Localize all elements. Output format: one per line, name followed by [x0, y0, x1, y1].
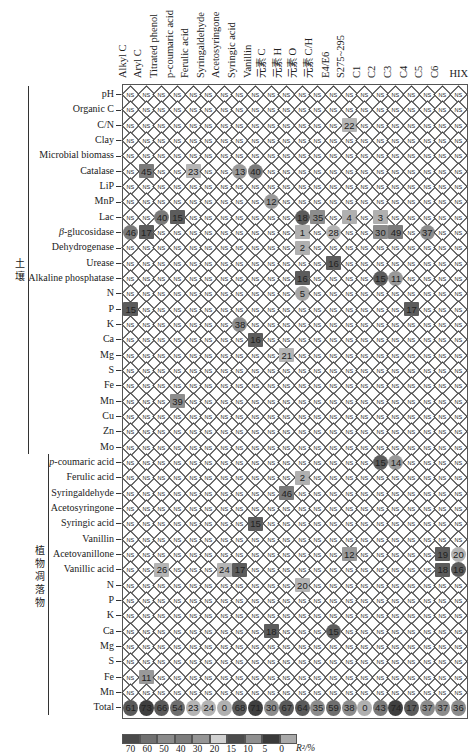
heatmap-cell: NS — [154, 332, 170, 347]
heatmap-cell: NS — [451, 685, 467, 700]
heatmap-cell: NS — [279, 654, 295, 669]
heatmap-cell: 30 — [263, 700, 279, 715]
heatmap-cell: NS — [435, 608, 451, 623]
heatmap-cell: NS — [201, 286, 217, 301]
column-label: C6 — [429, 66, 440, 78]
table-row: NSNSNSNSNSNSNSNSNSNSNSNSNSNSNSNSNSNSNSNS… — [123, 532, 467, 547]
heatmap-cell: NS — [201, 562, 217, 577]
heatmap-cell: NS — [232, 286, 248, 301]
heatmap-cell: NS — [123, 240, 139, 255]
heatmap-cell: 16 — [248, 332, 264, 347]
heatmap-cell: NS — [232, 332, 248, 347]
heatmap-cell: NS — [154, 102, 170, 117]
heatmap-cell: NS — [123, 562, 139, 577]
column-label: Alkyl C — [117, 44, 128, 78]
row-label: Dehydrogenase — [52, 239, 121, 254]
legend-tick: 5 — [256, 744, 273, 754]
heatmap-cell: NS — [357, 608, 373, 623]
heatmap-cell: NS — [232, 470, 248, 485]
heatmap-cell: NS — [201, 102, 217, 117]
heatmap-cell: NS — [388, 302, 404, 317]
heatmap-cell: NS — [248, 654, 264, 669]
heatmap-cell: NS — [404, 608, 420, 623]
table-row: 4617NSNSNSNSNSNSNSNSNS1NS28NSNS3049NS37N… — [123, 225, 467, 240]
row-label: Mo — [100, 439, 121, 454]
table-row: 6173665423240687130676435593804374173737… — [123, 700, 467, 715]
heatmap-cell: NS — [232, 240, 248, 255]
heatmap-cell: NS — [326, 286, 342, 301]
heatmap-cell: NS — [310, 148, 326, 163]
heatmap-cell: NS — [357, 424, 373, 439]
heatmap-cell: 0 — [357, 700, 373, 715]
heatmap-cell: 64 — [295, 700, 311, 715]
row-label: β-glucosidase — [59, 224, 121, 239]
heatmap-cell: NS — [357, 240, 373, 255]
table-row: NSNSNSNSNSNSNSNSNSNSNSNSNSNSNSNSNSNSNSNS… — [123, 685, 467, 700]
heatmap-cell: 19 — [435, 547, 451, 562]
heatmap-cell: NS — [404, 562, 420, 577]
heatmap-cell: NS — [123, 332, 139, 347]
heatmap-cell: 23 — [185, 700, 201, 715]
heatmap-cell: NS — [248, 194, 264, 209]
heatmap-cell: 18 — [435, 562, 451, 577]
heatmap-cell: NS — [170, 562, 186, 577]
heatmap-cell: NS — [201, 240, 217, 255]
heatmap-cell: NS — [435, 332, 451, 347]
heatmap-cell: NS — [170, 654, 186, 669]
heatmap-cell: 0 — [217, 700, 233, 715]
heatmap-cell: NS — [404, 470, 420, 485]
table-row: NSNSNSNSNSNSNSNSNSNSNSNSNS16NSNSNSNSNSNS… — [123, 256, 467, 271]
heatmap-cell: NS — [404, 240, 420, 255]
row-label: P — [108, 301, 121, 316]
table-row: NSNSNSNSNSNSNSNSNSNSNS2NSNSNSNSNSNSNSNSN… — [123, 470, 467, 485]
heatmap-cell: NS — [232, 194, 248, 209]
heatmap-cell: NS — [435, 240, 451, 255]
heatmap-cell: NS — [388, 194, 404, 209]
heatmap-cell: NS — [451, 532, 467, 547]
heatmap-cell: NS — [326, 424, 342, 439]
column-label: 元素 H — [269, 48, 284, 78]
heatmap-cell: NS — [451, 378, 467, 393]
row-label: Mn — [100, 684, 121, 699]
legend-swatch — [262, 734, 280, 744]
heatmap-cell: NS — [388, 102, 404, 117]
row-label: Ca — [103, 331, 121, 346]
heatmap-cell: NS — [170, 332, 186, 347]
table-row: NSNSNSNSNSNSNSNS16NSNSNSNSNSNSNSNSNSNSNS… — [123, 332, 467, 347]
legend-unit: R²/% — [296, 743, 315, 753]
heatmap-cell: NS — [326, 685, 342, 700]
heatmap-cell: NS — [201, 148, 217, 163]
column-label: Syringic acid — [226, 22, 237, 78]
heatmap-cell: NS — [279, 470, 295, 485]
heatmap-cell: NS — [310, 624, 326, 639]
heatmap-cell: 67 — [279, 700, 295, 715]
heatmap-cell: NS — [123, 608, 139, 623]
heatmap-cell: NS — [123, 164, 139, 179]
column-label: Titrated phenol — [148, 14, 159, 78]
heatmap-cell: NS — [201, 332, 217, 347]
section-label: 土壤 — [14, 257, 26, 283]
heatmap-cell: NS — [248, 562, 264, 577]
heatmap-cell: NS — [310, 470, 326, 485]
heatmap-cell: NS — [404, 654, 420, 669]
table-row: NSNSNSNSNSNSNSNSNSNSNSNSNSNSNSNSNSNSNSNS… — [123, 440, 467, 455]
heatmap-cell: NS — [435, 424, 451, 439]
heatmap-cell: NS — [310, 194, 326, 209]
heatmap-cell: NS — [404, 516, 420, 531]
table-row: NSNSNSNSNSNSNS38NSNSNSNSNSNSNSNSNSNSNSNS… — [123, 317, 467, 332]
heatmap-cell: NS — [388, 608, 404, 623]
heatmap-cell: NS — [388, 240, 404, 255]
row-label: LiP — [100, 178, 121, 193]
heatmap-cell: NS — [123, 194, 139, 209]
row-label: K — [107, 607, 121, 622]
heatmap-cell: 59 — [326, 700, 342, 715]
table-row: NSNSNSNSNSNSNSNSNSNSNSNSNSNSNSNSNSNSNSNS… — [123, 87, 467, 102]
heatmap-cell: NS — [201, 424, 217, 439]
table-row: NSNSNSNSNSNSNSNSNSNSNSNSNSNSNSNSNSNSNSNS… — [123, 363, 467, 378]
row-label: Mg — [100, 638, 121, 653]
heatmap-cell: NS — [435, 470, 451, 485]
heatmap-cell: NS — [357, 194, 373, 209]
table-row: NSNSNSNSNSNSNSNSNSNSNSNSNSNS12NSNSNSNSNS… — [123, 547, 467, 562]
heatmap-cell: NS — [326, 194, 342, 209]
heatmap-cell: NS — [279, 148, 295, 163]
